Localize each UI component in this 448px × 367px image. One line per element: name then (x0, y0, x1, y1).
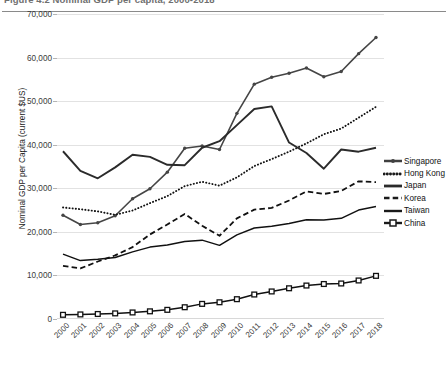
caption-divider (2, 11, 446, 12)
legend-item-taiwan[interactable]: Taiwan (383, 205, 447, 217)
data-point (234, 297, 239, 302)
data-point (148, 187, 151, 190)
legend-label: Korea (403, 194, 426, 203)
data-point (269, 289, 274, 294)
plot-area (57, 14, 384, 319)
data-point (148, 309, 153, 314)
data-series-layer (57, 14, 384, 319)
legend-label: Taiwan (403, 206, 430, 215)
series-japan (63, 106, 376, 178)
y-tick-label: 20,000 (10, 227, 52, 236)
y-tick-mark (53, 319, 57, 320)
legend-swatch-icon (383, 206, 403, 216)
legend-label: Singapore (403, 157, 441, 166)
legend-swatch-icon (383, 218, 403, 228)
chart-plot-wrapper: Nominal GDP per Capita (current $US) 70,… (0, 14, 448, 367)
data-point (182, 305, 187, 310)
data-point (217, 300, 222, 305)
legend-item-china[interactable]: China (383, 217, 447, 229)
series-korea (63, 181, 376, 268)
data-point (304, 283, 309, 288)
y-tick-label: 30,000 (10, 184, 52, 193)
data-point (252, 292, 257, 297)
data-point (287, 286, 292, 291)
data-point (374, 36, 377, 39)
data-point (183, 147, 186, 150)
data-point (235, 112, 238, 115)
series-hong-kong (63, 107, 376, 215)
data-point (200, 301, 205, 306)
y-tick-label: 70,000 (10, 10, 52, 19)
data-point (61, 214, 64, 217)
data-point (165, 307, 170, 312)
data-point (321, 282, 326, 287)
legend-item-korea[interactable]: Korea (383, 192, 447, 204)
legend-label: Hong Kong (403, 169, 445, 178)
legend-item-hong-kong[interactable]: Hong Kong (383, 167, 447, 179)
data-point (113, 311, 118, 316)
data-point (131, 197, 134, 200)
series-singapore (61, 36, 377, 226)
x-axis-tick-labels: 2000200120022003200420052006200720082009… (57, 321, 384, 367)
chart-legend: SingaporeHong KongJapanKoreaTaiwanChina (383, 155, 447, 229)
legend-item-singapore[interactable]: Singapore (383, 155, 447, 167)
data-point (339, 281, 344, 286)
data-point (253, 82, 256, 85)
y-tick-label: 60,000 (10, 53, 52, 62)
figure-caption: Figure 4.2 Nominal GDP per capita, 2000-… (4, 0, 434, 6)
data-point (79, 223, 82, 226)
y-tick-label: 40,000 (10, 140, 52, 149)
data-point (357, 52, 360, 55)
y-tick-label: 10,000 (10, 271, 52, 280)
data-point (356, 278, 361, 283)
data-point (287, 72, 290, 75)
data-point (305, 66, 308, 69)
figure-container: Figure 4.2 Nominal GDP per capita, 2000-… (0, 0, 448, 367)
y-tick-label: 0 (10, 315, 52, 324)
data-point (166, 170, 169, 173)
data-point (95, 312, 100, 317)
series-taiwan (63, 207, 376, 261)
data-point (322, 75, 325, 78)
data-point (374, 273, 379, 278)
data-point (270, 75, 273, 78)
data-point (96, 221, 99, 224)
legend-label: Japan (403, 181, 426, 190)
data-point (218, 148, 221, 151)
legend-swatch-icon (383, 193, 403, 203)
legend-item-japan[interactable]: Japan (383, 180, 447, 192)
legend-swatch-icon (383, 181, 403, 191)
y-tick-label: 50,000 (10, 97, 52, 106)
data-point (130, 310, 135, 315)
data-point (61, 312, 66, 317)
series-china (61, 273, 379, 317)
y-axis-tick-labels: 70,00060,00050,00040,00030,00020,00010,0… (0, 14, 52, 367)
data-point (78, 312, 83, 317)
legend-swatch-icon (383, 156, 403, 166)
legend-swatch-icon (383, 169, 403, 179)
legend-label: China (403, 219, 425, 228)
data-point (340, 70, 343, 73)
